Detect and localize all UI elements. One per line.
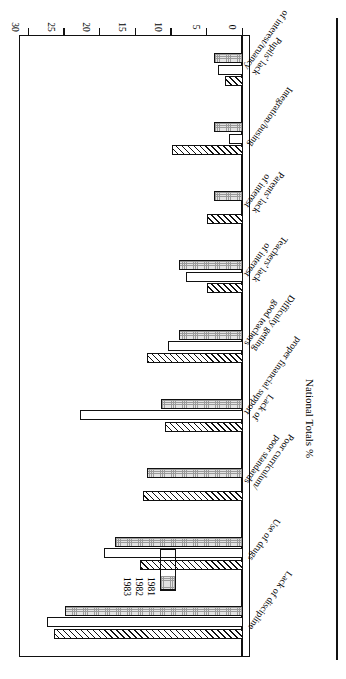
bar-1982 <box>186 272 243 282</box>
axis-tick-label: 20 <box>82 22 92 32</box>
axis-tick-label: 5 <box>191 25 201 30</box>
axis-tick <box>242 28 243 35</box>
bar-1982 <box>47 617 243 627</box>
axis-tick <box>170 28 171 35</box>
axis-title: National Totals % <box>304 379 316 458</box>
bar-1983 <box>179 330 243 340</box>
bar-1983 <box>115 537 243 547</box>
bar-1983 <box>214 53 243 63</box>
bar-1983 <box>147 468 243 478</box>
axis-tick-label: 15 <box>117 22 127 32</box>
axis-tick <box>63 28 64 35</box>
bar-1982 <box>168 341 243 351</box>
legend-label-1982: 1982 <box>134 577 144 596</box>
bar-1983 <box>214 191 243 201</box>
bar-1982 <box>80 410 243 420</box>
axis-tick <box>135 28 136 35</box>
bar-1981 <box>165 422 243 432</box>
bar-1981 <box>172 145 243 155</box>
bar-1983 <box>214 122 243 132</box>
axis-tick-label: 25 <box>46 22 56 32</box>
legend-swatch-1983 <box>161 576 175 590</box>
legend-label-1981: 1981 <box>146 577 156 596</box>
legend-swatches <box>160 549 176 591</box>
bar-1981 <box>143 491 243 501</box>
chart-legend: 1981 1982 1983 <box>160 549 176 591</box>
bar-1982 <box>218 65 243 75</box>
bar-1981 <box>225 76 243 86</box>
axis-tick-label: 10 <box>153 22 163 32</box>
bar-1981 <box>54 629 243 639</box>
bar-1982 <box>229 134 243 144</box>
bar-1981 <box>207 214 243 224</box>
chart-page: Lack of disciplineUse of drugsPoor curri… <box>0 0 346 679</box>
bar-1983 <box>179 260 243 270</box>
legend-label-1983: 1983 <box>122 577 132 596</box>
rotated-chart-stage: Lack of disciplineUse of drugsPoor curri… <box>0 0 346 679</box>
bar-1981 <box>147 353 243 363</box>
axis-tick <box>206 28 207 35</box>
bar-1981 <box>207 283 243 293</box>
axis-tick <box>28 28 29 35</box>
axis-tick-label: 30 <box>10 22 20 32</box>
bar-1983 <box>65 606 243 616</box>
legend-labels: 1981 1982 1983 <box>114 549 158 591</box>
axis-tick <box>99 28 100 35</box>
axis-tick-label: 0 <box>227 25 237 30</box>
bar-1983 <box>161 399 243 409</box>
